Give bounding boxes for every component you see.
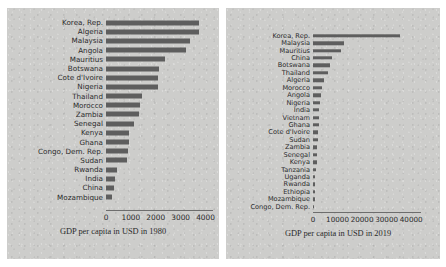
bar-track <box>313 92 434 99</box>
bar-track <box>106 174 213 183</box>
figure-container: Korea, Rep.AlgeriaMalaysiaAngolaMauritiu… <box>0 0 446 267</box>
bar-track <box>313 69 434 76</box>
bar-track <box>313 196 434 203</box>
bar <box>313 34 400 37</box>
bar-row: Cote d'Ivoire <box>13 73 213 82</box>
bar-track <box>313 47 434 54</box>
bar-row: Rwanda <box>13 165 213 174</box>
bar <box>313 190 315 193</box>
bar <box>313 123 319 126</box>
bar <box>106 75 158 80</box>
bar-row: Mauritius <box>13 55 213 64</box>
bar <box>313 116 319 119</box>
bar-track <box>313 106 434 113</box>
category-label: Congo, Dem. Rep. <box>232 203 313 211</box>
bar-row: Senegal <box>13 119 213 128</box>
bar-track <box>313 203 434 210</box>
bar-track <box>313 114 434 121</box>
category-label: Mauritius <box>13 55 106 64</box>
x-tick-label: 2000 <box>146 213 165 222</box>
bar-track <box>106 165 213 174</box>
bar-row: China <box>13 183 213 192</box>
bar-track <box>313 181 434 188</box>
bar-track <box>106 55 213 64</box>
bar <box>106 38 190 43</box>
bar <box>106 66 159 71</box>
category-label: China <box>13 183 106 192</box>
bar-rows-2019: Korea, Rep.MalaysiaMauritiusChinaBotswan… <box>232 32 434 211</box>
bar-track <box>313 144 434 151</box>
bar-track <box>106 64 213 73</box>
category-label: Angola <box>13 46 106 55</box>
bar-track <box>313 158 434 165</box>
x-axis-title-1980: GDP per capita in USD in 1980 <box>13 227 213 236</box>
bar <box>106 94 142 99</box>
bar-track <box>313 84 434 91</box>
category-label: Botswana <box>13 64 106 73</box>
bar <box>313 41 344 44</box>
category-label: Kenya <box>13 128 106 137</box>
category-label: Sudan <box>13 156 106 165</box>
bar <box>313 160 317 163</box>
category-label: Nigeria <box>13 82 106 91</box>
bar-track <box>313 32 434 39</box>
bar <box>106 185 114 190</box>
bar-track <box>106 183 213 192</box>
category-label: Cote d'Ivoire <box>13 73 106 82</box>
bar-row: Morocco <box>13 101 213 110</box>
bar-row: Ghana <box>13 137 213 146</box>
bar <box>313 94 321 97</box>
bar <box>106 158 127 163</box>
x-axis-line-2019 <box>313 212 421 213</box>
x-axis-line-1980 <box>106 210 213 211</box>
bar-track <box>313 173 434 180</box>
chart-panel-2019: Korea, Rep.MalaysiaMauritiusChinaBotswan… <box>226 8 440 259</box>
bar-track <box>106 110 213 119</box>
bar <box>106 140 129 145</box>
bar <box>106 20 199 25</box>
bar-row: Botswana <box>13 64 213 73</box>
category-label: Malaysia <box>13 36 106 45</box>
bar-track <box>106 36 213 45</box>
bar <box>313 138 318 141</box>
bar <box>313 198 315 201</box>
bar-track <box>313 129 434 136</box>
x-tick-label: 40000 <box>400 215 423 224</box>
bar-row: India <box>13 174 213 183</box>
category-label: Korea, Rep. <box>13 18 106 27</box>
bar-track <box>106 137 213 146</box>
bar-track <box>106 82 213 91</box>
bar-track <box>106 193 213 202</box>
category-label: Mozambique <box>13 193 106 202</box>
x-tick-label: 1000 <box>121 213 140 222</box>
x-tick-label: 4000 <box>196 213 215 222</box>
bar <box>313 131 318 134</box>
category-label: Thailand <box>13 92 106 101</box>
bar <box>106 195 112 200</box>
bar-row: Thailand <box>13 92 213 101</box>
bar <box>313 79 324 82</box>
category-label: Rwanda <box>13 165 106 174</box>
bar-row: Congo, Dem. Rep. <box>232 203 434 210</box>
bar <box>313 101 320 104</box>
bar <box>106 149 128 154</box>
bar-track <box>313 39 434 46</box>
bar-row: Congo, Dem. Rep. <box>13 147 213 156</box>
bar-row: Nigeria <box>13 82 213 91</box>
bar <box>106 57 165 62</box>
x-tick-label: 0 <box>104 213 109 222</box>
x-tick-label: 20000 <box>351 215 374 224</box>
bar <box>313 108 319 111</box>
bar-track <box>313 62 434 69</box>
bar <box>313 205 314 208</box>
x-axis-ticks-1980: 01000200030004000 <box>106 213 213 225</box>
bar <box>106 130 129 135</box>
bar-row: Zambia <box>13 110 213 119</box>
bar-track <box>106 119 213 128</box>
bar <box>313 64 330 67</box>
bar <box>313 183 315 186</box>
bar-track <box>313 188 434 195</box>
x-tick-label: 10000 <box>326 215 349 224</box>
bar-track <box>106 27 213 36</box>
bar <box>106 103 140 108</box>
